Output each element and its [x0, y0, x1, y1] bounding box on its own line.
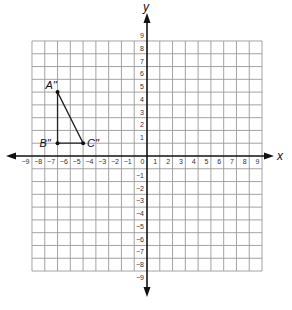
y-tick-label: −3: [136, 197, 144, 204]
y-tick-label: −1: [136, 172, 144, 179]
x-tick-label: 4: [192, 158, 196, 165]
x-tick-label: 2: [166, 158, 170, 165]
x-tick-label: 6: [217, 158, 221, 165]
x-tick-label: −7: [47, 158, 55, 165]
y-axis-up-arrow-icon: [144, 13, 151, 23]
x-tick-label: 0: [141, 158, 145, 165]
x-tick-label: −8: [34, 158, 42, 165]
x-axis-label: x: [276, 149, 284, 163]
x-tick-label: −4: [85, 158, 93, 165]
x-tick-label: −1: [124, 158, 132, 165]
y-tick-label: −4: [136, 210, 144, 217]
vertex-label: C": [87, 137, 100, 149]
x-tick-label: 3: [179, 158, 183, 165]
x-tick-label: −6: [60, 158, 68, 165]
y-tick-label: −6: [136, 236, 144, 243]
y-tick-label: 3: [140, 109, 144, 116]
x-axis-left-arrow-icon: [6, 153, 16, 160]
y-tick-label: −5: [136, 223, 144, 230]
x-tick-label: 9: [256, 158, 260, 165]
x-tick-label: 5: [204, 158, 208, 165]
y-tick-label: 4: [140, 96, 144, 103]
x-axis-right-arrow-icon: [264, 153, 274, 160]
x-tick-label: −2: [111, 158, 119, 165]
y-tick-label: 2: [140, 121, 144, 128]
x-tick-label: 8: [243, 158, 247, 165]
y-axis-down-arrow-icon: [144, 287, 151, 297]
x-tick-label: −9: [21, 158, 29, 165]
y-tick-label: −8: [136, 261, 144, 268]
coordinate-plane: −9−8−7−6−5−4−3−2−10123456789987654321−1−…: [0, 0, 292, 310]
triangle-abc: A"B"C": [40, 79, 101, 149]
y-tick-label: 9: [140, 32, 144, 39]
x-tick-label: 7: [230, 158, 234, 165]
y-tick-label: 7: [140, 58, 144, 65]
y-tick-label: 8: [140, 45, 144, 52]
y-tick-label: 1: [140, 134, 144, 141]
y-tick-label: −7: [136, 248, 144, 255]
y-tick-label: −2: [136, 185, 144, 192]
vertex-label: B": [40, 137, 52, 149]
vertex-point: [56, 141, 60, 145]
x-tick-label: −3: [98, 158, 106, 165]
y-tick-label: 6: [140, 70, 144, 77]
y-tick-label: 5: [140, 83, 144, 90]
y-tick-label: −9: [136, 274, 144, 281]
vertex-label: A": [45, 79, 58, 91]
x-tick-label: −5: [73, 158, 81, 165]
y-axis-label: y: [142, 0, 150, 14]
vertex-point: [81, 141, 85, 145]
x-tick-label: 1: [153, 158, 157, 165]
